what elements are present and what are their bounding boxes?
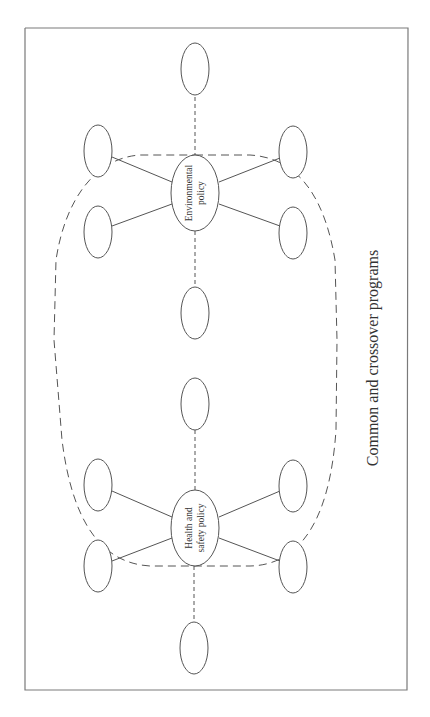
hub-health-safety-line1: Health and xyxy=(184,507,194,549)
hs-link-ll xyxy=(112,538,172,561)
hs-node-ll xyxy=(84,540,112,592)
env-node-ul xyxy=(84,125,112,177)
hub-health-safety: Health and safety policy xyxy=(171,490,219,566)
node-bottom xyxy=(180,622,208,674)
env-node-lr xyxy=(279,207,307,259)
hub-environmental-line2: policy xyxy=(196,181,206,205)
hs-node-ur xyxy=(279,460,307,512)
hs-link-lr xyxy=(219,538,280,561)
hs-node-ul xyxy=(84,459,112,511)
node-mid-upper xyxy=(181,287,209,339)
env-link-ul xyxy=(112,157,172,182)
hs-link-ur xyxy=(219,491,280,517)
env-link-ur xyxy=(219,158,280,182)
env-link-lr xyxy=(219,204,280,226)
hub-environmental-line1: Environmental xyxy=(184,164,194,221)
diagram-frame xyxy=(25,28,408,690)
hub-health-safety-line2: safety policy xyxy=(196,503,206,552)
hs-link-ul xyxy=(112,491,172,517)
hs-node-lr xyxy=(279,541,307,593)
env-link-ll xyxy=(112,204,172,226)
env-node-ll xyxy=(84,206,112,258)
policy-diagram: Environmental policy Health and safety p… xyxy=(0,0,430,717)
node-top xyxy=(181,43,209,95)
env-node-ur xyxy=(279,126,307,178)
node-mid-lower xyxy=(181,378,209,430)
diagram-caption: Common and crossover programs xyxy=(364,250,382,466)
hub-environmental: Environmental policy xyxy=(171,155,219,231)
